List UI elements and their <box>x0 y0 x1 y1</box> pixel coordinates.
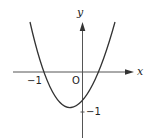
parabola-curve <box>30 22 115 108</box>
origin-label: O <box>72 76 80 86</box>
y-tick-neg1-label: −1 <box>86 107 101 117</box>
y-axis-arrow-icon <box>80 22 86 31</box>
y-axis-label: y <box>77 7 83 18</box>
x-axis-arrow-icon <box>125 69 134 75</box>
x-tick-neg1-label: −1 <box>27 76 42 86</box>
parabola-graph <box>0 0 149 140</box>
x-axis-label: x <box>137 66 143 77</box>
